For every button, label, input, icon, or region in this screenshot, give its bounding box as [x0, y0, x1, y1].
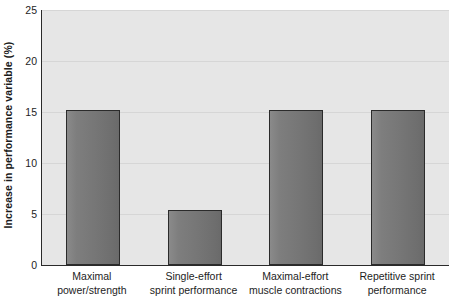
x-axis-category-line: Maximal-effort — [245, 270, 347, 284]
y-axis-tick-label: 20 — [25, 55, 37, 67]
bar-chart: Increase in performance variable (%) 051… — [0, 0, 455, 308]
bar — [371, 110, 425, 265]
y-axis-title-text: Increase in performance variable (%) — [2, 42, 14, 229]
gridline — [42, 61, 449, 62]
x-axis-category-line: Single-effort — [143, 270, 245, 284]
x-axis-category-line: performance — [346, 284, 448, 298]
bar — [269, 110, 323, 265]
x-axis-category-line: Maximal — [41, 270, 143, 284]
y-axis-tick-label: 10 — [25, 157, 37, 169]
x-axis-category-line: muscle contractions — [245, 284, 347, 298]
x-axis-category-label: Repetitive sprintperformance — [346, 270, 448, 297]
x-axis-category-line: power/strength — [41, 284, 143, 298]
y-axis-tick-label: 15 — [25, 106, 37, 118]
x-axis-tick-labels: Maximalpower/strengthSingle-effortsprint… — [41, 270, 448, 308]
gridline — [42, 10, 449, 11]
y-axis-tick-label: 25 — [25, 4, 37, 16]
y-axis-tick-label: 5 — [31, 208, 37, 220]
bar — [168, 210, 222, 265]
y-axis-tick-labels: 0510152025 — [14, 0, 40, 275]
bar — [66, 110, 120, 265]
x-axis-category-label: Single-effortsprint performance — [143, 270, 245, 297]
x-axis-category-label: Maximalpower/strength — [41, 270, 143, 297]
x-axis-category-line: Repetitive sprint — [346, 270, 448, 284]
plot-area — [41, 10, 449, 266]
x-axis-category-label: Maximal-effortmuscle contractions — [245, 270, 347, 297]
x-axis-category-line: sprint performance — [143, 284, 245, 298]
y-axis-tick-label: 0 — [31, 259, 37, 271]
